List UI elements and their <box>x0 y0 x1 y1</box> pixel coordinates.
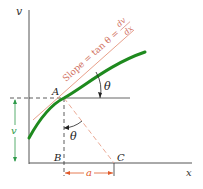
point-C-label: C <box>117 152 125 163</box>
width-arrow-left <box>65 171 70 175</box>
angle-label-lower: θ <box>70 130 77 143</box>
tangent-line <box>33 30 134 120</box>
angle-label-upper: θ <box>104 80 111 93</box>
height-label: v <box>11 125 17 136</box>
width-label: a <box>86 167 92 178</box>
x-axis-label: x <box>186 167 192 178</box>
height-arrow-top <box>13 99 17 104</box>
slope-text: Slope = tan θ = <box>61 28 121 84</box>
arc-arrowhead-upper <box>98 92 102 98</box>
point-A-label: A <box>51 86 59 97</box>
width-arrow-right <box>108 171 113 175</box>
arc-arrowhead-lower <box>64 125 69 130</box>
phase-plane-diagram: v x θ θ A B C v a Slope = tan θ = dv dx <box>0 0 203 189</box>
point-B-label: B <box>53 152 61 163</box>
height-arrow-bottom <box>13 157 17 162</box>
y-axis-label: v <box>16 5 23 18</box>
